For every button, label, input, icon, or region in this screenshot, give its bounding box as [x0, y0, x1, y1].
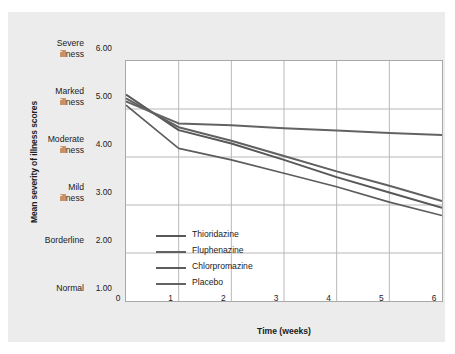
y-category-label: Mildillness — [28, 182, 84, 203]
y-category-label-line: Borderline — [28, 235, 84, 246]
x-tick-label: 1 — [161, 293, 181, 303]
y-category-label-line: Normal — [28, 283, 84, 294]
y-tick-label: 5.00 — [84, 91, 112, 101]
legend-label: Chlorpromazine — [192, 261, 253, 271]
y-category-label-line: illness — [28, 49, 84, 60]
legend-swatch-line-icon — [156, 251, 186, 253]
y-tick-label: 1.00 — [84, 283, 112, 293]
y-category-label-line: Severe — [28, 38, 84, 49]
legend-swatch-line-icon — [156, 267, 186, 269]
chart-panel: Mean severity of illness scores Severeil… — [8, 12, 445, 342]
y-category-label-line: Moderate — [28, 134, 84, 145]
y-category-label: Normal — [28, 283, 84, 294]
legend-item[interactable]: Chlorpromazine — [156, 260, 306, 276]
y-tick-label: 3.00 — [84, 187, 112, 197]
legend-item[interactable]: Fluphenazine — [156, 244, 306, 260]
y-category-label: Moderateillness — [28, 134, 84, 155]
y-category-label-line: illness — [28, 97, 84, 108]
x-tick-label: 2 — [213, 293, 233, 303]
y-category-label-line: Marked — [28, 86, 84, 97]
x-tick-label: 4 — [319, 293, 339, 303]
y-tick-label: 4.00 — [84, 139, 112, 149]
legend-label: Placebo — [192, 277, 223, 287]
y-category-label: Severeillness — [28, 38, 84, 59]
legend-item[interactable]: Placebo — [156, 276, 306, 292]
y-category-label-line: illness — [28, 193, 84, 204]
legend-item[interactable]: Thioridazine — [156, 228, 306, 244]
legend-label: Fluphenazine — [192, 245, 244, 255]
x-tick-label: 0 — [108, 293, 128, 303]
legend-swatch-line-icon — [156, 235, 186, 237]
y-category-label: Markedillness — [28, 86, 84, 107]
x-tick-label: 6 — [424, 293, 444, 303]
chart-legend: ThioridazineFluphenazineChlorpromazinePl… — [156, 228, 306, 292]
y-category-label-line: Mild — [28, 182, 84, 193]
y-tick-label: 6.00 — [84, 43, 112, 53]
x-axis-title: Time (weeks) — [125, 326, 443, 336]
legend-label: Thioridazine — [192, 229, 239, 239]
legend-swatch-line-icon — [156, 283, 186, 285]
y-category-label-line: illness — [28, 145, 84, 156]
chart-figure: Mean severity of illness scores Severeil… — [0, 0, 455, 354]
x-tick-label: 3 — [266, 293, 286, 303]
y-category-label: Borderline — [28, 235, 84, 246]
x-tick-label: 5 — [371, 293, 391, 303]
y-tick-label: 2.00 — [84, 235, 112, 245]
